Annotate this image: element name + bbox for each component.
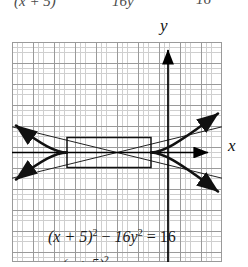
- eq2-fraction: (x + 5)216: [59, 255, 112, 262]
- eq2-numerator: (x + 5)2: [59, 255, 112, 262]
- equation-line-2: or(x + 5)216− y2 = 1: [40, 256, 165, 262]
- eq1-term2-base: 16y: [115, 228, 138, 245]
- graph-plot-area: (x + 5)2 − 16y2 = 16 or(x + 5)216− y2 = …: [12, 42, 222, 262]
- eq1-lhs-exp: 2: [93, 227, 98, 238]
- eq1-rhs: 16: [160, 228, 176, 245]
- eq1-lhs-base: (x + 5): [48, 228, 93, 245]
- figure-root: (x + 5)2 16y2 16 y x: [0, 0, 248, 267]
- eq1-minus: −: [102, 228, 111, 245]
- cut-fragment-part-3: 16: [196, 0, 211, 8]
- equation-line-1: (x + 5)2 − 16y2 = 16: [48, 227, 176, 246]
- eq1-term2-exp: 2: [138, 227, 143, 238]
- y-axis-label: y: [160, 16, 168, 36]
- eq1-equals: =: [147, 228, 156, 245]
- cut-fragment-part-2: 16y2: [112, 0, 139, 9]
- cut-fragment-part-1: (x + 5)2: [14, 0, 61, 9]
- cut-off-text-fragment: (x + 5)2 16y2 16: [0, 0, 248, 9]
- x-axis-label: x: [228, 136, 236, 156]
